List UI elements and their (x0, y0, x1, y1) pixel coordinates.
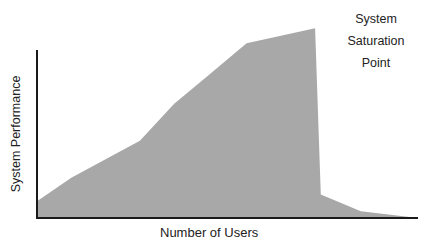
saturation-point-annotation: System Saturation Point (326, 8, 426, 74)
x-axis-label: Number of Users (160, 225, 258, 240)
annotation-line-1: System (326, 8, 426, 30)
annotation-line-2: Saturation (326, 30, 426, 52)
annotation-line-3: Point (326, 52, 426, 74)
y-axis-label: System Performance (9, 76, 23, 193)
